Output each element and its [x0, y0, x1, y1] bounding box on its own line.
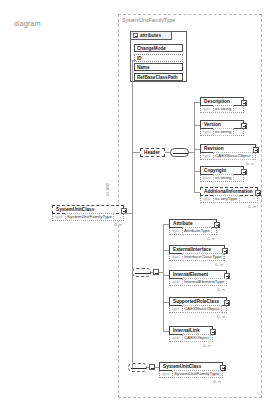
type-value-label: CAEXObject	[182, 334, 212, 342]
element-system-unit-class-recursive[interactable]: SystemUnitClass type SystemUnitFamilyTyp…	[159, 362, 223, 378]
type-value-label: CAEXBasicObject	[182, 305, 222, 313]
connector-branch	[163, 275, 169, 276]
element-name: SystemUnitClass	[56, 207, 94, 212]
element-version[interactable]: Version type xs:string	[200, 120, 244, 136]
connector-branch	[194, 149, 200, 150]
type-key-label: type	[203, 106, 211, 111]
cardinality-label: 0..∞	[213, 379, 221, 384]
element-name: SupportedRoleClass	[173, 299, 219, 304]
element-name: AdditionalInformation	[204, 189, 253, 194]
element-type-bar: type AttributeType	[169, 228, 217, 236]
element-external-interface[interactable]: ExternalInterface type InterfaceClassTyp…	[169, 245, 225, 261]
element-name: Copyright	[204, 168, 226, 173]
element-internal-link[interactable]: InternalLink type CAEXObject 0..∞	[169, 326, 213, 342]
element-attribute[interactable]: Attribute type AttributeType 0..∞	[169, 219, 217, 235]
element-type-bar: type xs:string	[200, 106, 244, 114]
element-name: Revision	[204, 146, 224, 151]
sequence-compositor-recursive[interactable]	[128, 363, 147, 372]
connector-trunk-to-attributes	[132, 60, 136, 61]
type-key-label: type	[203, 196, 211, 201]
type-value-label: xs:string	[213, 174, 234, 182]
sequence-compositor-content[interactable]	[132, 268, 151, 277]
attributes-panel-header[interactable]: attributes	[130, 31, 172, 40]
cardinality-label: 0..∞	[114, 222, 122, 227]
type-key-label: type	[172, 254, 180, 259]
connector-content-bus	[163, 224, 164, 332]
connector-main-trunk	[132, 60, 133, 368]
connector-sequence-to-group	[147, 367, 149, 368]
type-key-label: type	[203, 175, 211, 180]
element-type-bar: type xs:anyType	[200, 196, 258, 204]
cardinality-label: 0..∞	[248, 204, 256, 209]
cardinality-label: 0..∞	[207, 236, 215, 241]
section-caption: diagram	[14, 20, 41, 27]
connector-root-to-container	[124, 213, 132, 214]
attribute-name: Name	[137, 65, 150, 70]
type-value-label: AttributeType	[182, 227, 213, 235]
cardinality-label: 0..∞	[217, 287, 225, 292]
element-revision[interactable]: Revision type CAEXBasicObject 0..∞	[200, 144, 256, 160]
element-type-bar: type xs:string	[200, 129, 244, 137]
connector-sequence-bus	[194, 102, 195, 192]
element-type-bar: type InternalElementType	[169, 279, 227, 287]
element-type-bar: type CAEXBasicObject	[169, 306, 227, 314]
element-name: ExternalInterface	[173, 247, 211, 252]
attribute-row[interactable]: ID	[134, 54, 183, 62]
element-name: Version	[204, 122, 221, 127]
connector-trunk-to-header	[132, 152, 140, 153]
attributes-panel-label: attributes	[140, 33, 161, 38]
element-name: Attribute	[173, 221, 193, 226]
connector-branch	[163, 224, 169, 225]
attribute-row[interactable]: Name	[134, 63, 183, 71]
cardinality-label: 0..∞	[246, 161, 254, 166]
any-attribute-side-label: xs:any	[105, 183, 110, 196]
type-value-label: SystemUnitFamilyType	[65, 213, 115, 221]
element-name-bar[interactable]: Header	[140, 148, 165, 157]
connector-branch	[163, 331, 169, 332]
element-name: SystemUnitClass	[163, 364, 201, 369]
attribute-row[interactable]: ChangeMode	[134, 44, 183, 52]
type-value-label: InterfaceClassType	[182, 253, 225, 261]
type-key-label: type	[203, 129, 211, 134]
element-description[interactable]: Description type xs:string	[200, 97, 244, 113]
element-copyright[interactable]: Copyright type xs:string	[200, 166, 244, 182]
cardinality-label: 0..∞	[203, 343, 211, 348]
type-value-label: SystemUnitFamilyType	[172, 370, 222, 378]
element-type-bar: type InterfaceClassType	[169, 254, 225, 262]
element-header[interactable]: Header	[140, 148, 165, 157]
cardinality-label: 0..∞	[217, 314, 225, 319]
schema-diagram-canvas: diagram SystemUnitFamilyType xs:any attr…	[0, 0, 264, 403]
connector-header-to-sequence	[165, 152, 170, 153]
type-key-label: type	[172, 279, 180, 284]
connector-branch	[194, 125, 200, 126]
connector-branch	[163, 302, 169, 303]
type-value-label: xs:string	[213, 105, 234, 113]
connector-branch	[194, 192, 200, 193]
type-value-label: xs:anyType	[213, 195, 240, 203]
element-type-bar: type SystemUnitFamilyType	[52, 214, 124, 222]
connector-branch	[194, 171, 200, 172]
complex-type-title: SystemUnitFamilyType	[122, 17, 175, 23]
collapse-icon[interactable]	[133, 33, 138, 38]
root-element-system-unit-class[interactable]: SystemUnitClass type SystemUnitFamilyTyp…	[52, 205, 124, 221]
element-name: InternalLink	[173, 328, 200, 333]
element-type-bar: type SystemUnitFamilyType	[159, 371, 223, 379]
element-internal-element[interactable]: InternalElement type InternalElementType…	[169, 270, 227, 286]
type-key-label: type	[172, 228, 180, 233]
element-name: Description	[204, 99, 230, 104]
sequence-compositor-header[interactable]	[170, 148, 189, 157]
element-supported-role-class[interactable]: SupportedRoleClass type CAEXBasicObject …	[169, 297, 227, 313]
cardinality-label: 0..∞	[215, 262, 223, 267]
connector-branch	[194, 102, 200, 103]
type-key-label: type	[55, 214, 63, 219]
element-additional-information[interactable]: AdditionalInformation type xs:anyType 0.…	[200, 187, 258, 203]
type-value-label: xs:string	[213, 128, 234, 136]
element-name: InternalElement	[173, 272, 208, 277]
attributes-panel[interactable]: attributes ChangeMode ID Name RefBaseCla…	[130, 31, 187, 82]
type-key-label: type	[172, 306, 180, 311]
element-type-bar: type CAEXObject	[169, 335, 213, 343]
connector-branch	[163, 250, 169, 251]
attribute-row[interactable]: RefBaseClassPath	[134, 73, 183, 81]
attribute-name: ChangeMode	[137, 46, 166, 51]
type-key-label: type	[203, 153, 211, 158]
